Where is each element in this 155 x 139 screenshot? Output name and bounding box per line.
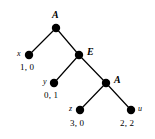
leaf-name-y: y (43, 78, 47, 86)
node-label-root: A (52, 10, 59, 20)
edge-e-a2 (79, 55, 106, 83)
leaf-payoff-u: 2, 2 (120, 119, 134, 128)
edge-root-x (29, 28, 56, 55)
edge-e-y (54, 55, 79, 83)
leaf-name-z: z (69, 105, 72, 113)
leaf-name-u: u (138, 105, 142, 113)
leaf-node-u (127, 106, 135, 114)
leaf-payoff-x: 1, 0 (20, 63, 34, 72)
leaf-payoff-z: 3, 0 (70, 119, 84, 128)
game-tree-figure: A E A x 1, 0 y 0, 1 z 3, 0 u 2, 2 (0, 0, 155, 139)
leaf-node-z (76, 106, 84, 114)
node-e (75, 51, 83, 59)
node-label-a2: A (114, 75, 121, 85)
node-a2 (102, 79, 110, 87)
leaf-payoff-y: 0, 1 (44, 91, 58, 100)
tree-nodes (25, 24, 135, 114)
leaf-node-x (25, 51, 33, 59)
leaf-name-x: x (17, 50, 21, 58)
edge-a2-u (106, 83, 131, 110)
node-label-e: E (87, 47, 94, 57)
leaf-node-y (50, 79, 58, 87)
edge-root-e (56, 28, 79, 55)
node-root (52, 24, 60, 32)
edge-a2-z (80, 83, 106, 110)
